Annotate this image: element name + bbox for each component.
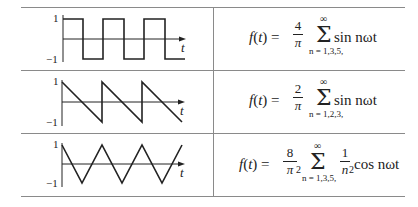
coefficient-exponent: 2: [296, 164, 301, 175]
sum-lower-limit: n = 1,3,5,: [302, 173, 336, 183]
formula-coefficient: 4 π: [293, 19, 303, 50]
sum-symbol: Σ: [316, 87, 332, 109]
y-tick-top: 1: [53, 75, 59, 87]
y-tick-top: 1: [53, 138, 59, 150]
square-wave-formula: f(t) = 4 π ∞ Σ n = 1,3,5, sin nωt: [214, 7, 405, 70]
sawtooth-wave-formula: f(t) = 2 π ∞ Σ n = 1,2,3, sin nωt: [214, 70, 405, 133]
square-wave-plot: 1 −1 t: [0, 7, 213, 70]
sawtooth-wave-plot: 1 −1 t: [0, 70, 213, 133]
formula-lhs: f(t) =: [249, 29, 280, 46]
triangle-wave-plot: 1 −1 t: [0, 133, 213, 196]
formula-coefficient: 2 π: [293, 82, 303, 113]
y-tick-top: 1: [53, 12, 59, 24]
x-axis-label: t: [180, 103, 184, 119]
sum-symbol: Σ: [310, 151, 326, 173]
sum-lower-limit: n = 1,2,3,: [309, 109, 343, 119]
y-tick-bottom: −1: [46, 53, 58, 65]
formula-term: sin nωt: [334, 92, 377, 109]
formula-term: sin nωt: [334, 29, 377, 46]
formula-coefficient: 8 π: [283, 146, 297, 177]
x-axis-label: t: [180, 165, 184, 181]
x-axis-label: t: [181, 40, 185, 56]
formula-lhs: f(t) =: [249, 92, 280, 109]
table-bottom-rule: [21, 196, 405, 197]
sum-symbol: Σ: [316, 24, 332, 46]
formula-lhs: f(t) =: [239, 156, 270, 173]
square-wave-graph: [0, 7, 213, 70]
sawtooth-wave-graph: [0, 70, 213, 133]
triangle-wave-formula: f(t) = 8 π 2 ∞ Σ n = 1,3,5, 1 n 2 cos nω…: [214, 133, 405, 196]
y-tick-bottom: −1: [46, 116, 58, 128]
formula-term: cos nωt: [354, 156, 399, 173]
y-tick-bottom: −1: [46, 177, 58, 189]
sum-lower-limit: n = 1,3,5,: [309, 46, 343, 56]
